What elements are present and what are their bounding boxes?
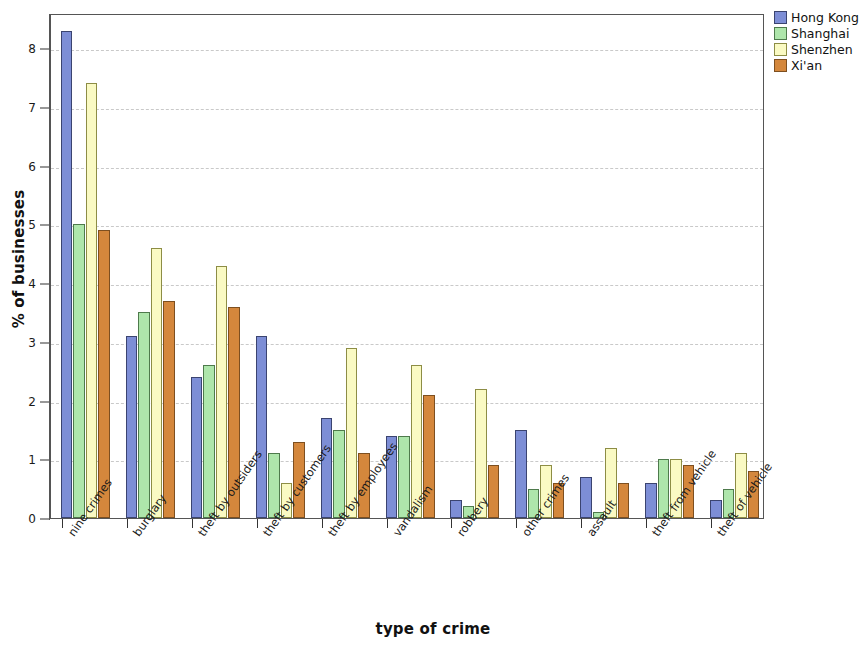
x-tick-mark	[62, 519, 63, 528]
bar	[98, 230, 110, 518]
bar	[321, 418, 333, 518]
legend-item: Hong Kong	[774, 10, 859, 25]
y-tick-label: 2	[28, 395, 36, 409]
bar-group	[126, 15, 175, 518]
bar	[515, 430, 527, 518]
plot-area	[50, 14, 764, 519]
y-axis-title: % of businesses	[10, 144, 28, 374]
x-tick-mark	[711, 519, 712, 528]
y-tick-mark	[40, 107, 49, 108]
legend-label: Xi'an	[791, 58, 822, 73]
legend-swatch-icon	[774, 59, 787, 72]
bar	[203, 365, 215, 518]
x-axis-title: type of crime	[0, 620, 866, 638]
y-tick-mark	[40, 342, 49, 343]
bar-group	[645, 15, 694, 518]
y-tick-label: 7	[28, 101, 36, 115]
legend-swatch-icon	[774, 27, 787, 40]
y-tick-label: 3	[28, 336, 36, 350]
bar	[710, 500, 722, 518]
y-tick-label: 5	[28, 218, 36, 232]
x-tick-mark	[127, 519, 128, 528]
y-tick-label: 0	[28, 512, 36, 526]
bar-group	[450, 15, 499, 518]
bar	[138, 312, 150, 518]
y-tick-mark	[40, 225, 49, 226]
x-tick-mark	[451, 519, 452, 528]
bar-group	[515, 15, 564, 518]
x-tick-mark	[581, 519, 582, 528]
bars-layer	[51, 15, 763, 518]
bar	[151, 248, 163, 518]
bar	[645, 483, 657, 518]
y-tick-label: 1	[28, 453, 36, 467]
bar	[163, 301, 175, 518]
bar-group	[580, 15, 629, 518]
legend-label: Shenzhen	[791, 42, 853, 57]
y-tick-mark	[40, 460, 49, 461]
bar	[86, 83, 98, 518]
x-tick-mark	[516, 519, 517, 528]
x-tick-mark	[257, 519, 258, 528]
bar	[618, 483, 630, 518]
x-tick-mark	[322, 519, 323, 528]
y-tick-mark	[40, 284, 49, 285]
bar-group	[256, 15, 305, 518]
y-tick-label: 8	[28, 42, 36, 56]
chart-canvas: 012345678 % of businesses nine crimesbur…	[0, 0, 866, 657]
bar-group	[710, 15, 759, 518]
x-tick-mark	[192, 519, 193, 528]
y-tick-label: 6	[28, 160, 36, 174]
x-tick-mark	[387, 519, 388, 528]
y-tick-label: 4	[28, 277, 36, 291]
bar	[450, 500, 462, 518]
bar	[73, 224, 85, 518]
bar	[126, 336, 138, 518]
y-tick-mark	[40, 401, 49, 402]
bar	[488, 465, 500, 518]
bar	[191, 377, 203, 518]
bar	[256, 336, 268, 518]
bar	[61, 31, 73, 518]
x-tick-mark	[646, 519, 647, 528]
legend-item: Xi'an	[774, 58, 859, 73]
legend: Hong KongShanghaiShenzhenXi'an	[774, 10, 859, 73]
legend-item: Shenzhen	[774, 42, 859, 57]
y-tick-mark	[40, 519, 49, 520]
bar	[580, 477, 592, 518]
legend-swatch-icon	[774, 43, 787, 56]
y-tick-mark	[40, 166, 49, 167]
legend-label: Shanghai	[791, 26, 849, 41]
legend-label: Hong Kong	[791, 10, 859, 25]
bar	[216, 266, 228, 519]
legend-swatch-icon	[774, 11, 787, 24]
bar-group	[61, 15, 110, 518]
bar-group	[321, 15, 370, 518]
y-tick-mark	[40, 49, 49, 50]
legend-item: Shanghai	[774, 26, 859, 41]
bar-group	[191, 15, 240, 518]
